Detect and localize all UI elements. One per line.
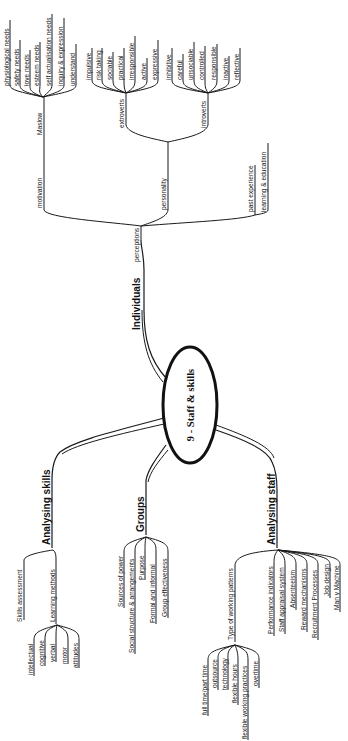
working-pattern-item: flexible hours	[231, 663, 238, 703]
extrovert-item: expressive	[151, 48, 159, 80]
maslow-item: understand	[69, 53, 76, 86]
branch-label-analysing-skills: Analysing skills	[41, 469, 52, 545]
central-topic-label: 9 - Staff & skills	[185, 369, 196, 441]
maslow-item: inquiry & expression	[57, 26, 65, 86]
working-pattern-item: flexible working practices	[241, 665, 249, 739]
working-pattern-items: full time/part time outsource technology…	[201, 645, 259, 740]
maslow-item: physiological needs	[3, 28, 11, 86]
learning-method-item: cognitive	[38, 640, 46, 666]
learning-method-item: attitudes	[72, 642, 79, 668]
analysing-staff-items: Performance indicators Staff appraisal s…	[267, 550, 340, 640]
working-pattern-item: technology	[221, 657, 229, 690]
groups-item: Formal and informal	[149, 564, 156, 623]
extroverts-items: impulsive risk taking sociable practical…	[85, 36, 159, 93]
node-maslow: Maslow	[36, 112, 43, 135]
branch-individuals: Individuals perceptions motivation perso…	[3, 14, 268, 382]
extrovert-item: risk taking	[95, 50, 103, 80]
node-working-patterns: Type of working patterns	[227, 567, 235, 640]
maslow-item: esteem needs	[33, 44, 40, 86]
analysing-staff-item: Absenteeism	[289, 569, 296, 608]
introvert-item: responsible	[210, 46, 218, 80]
node-skills-assessment: Skills assessment	[16, 569, 23, 622]
analysing-staff-item: Job design	[323, 564, 331, 596]
learning-method-items: intellectual cognitive verbal motor atti…	[27, 625, 79, 676]
introvert-item: unsociable	[187, 48, 194, 80]
branch-label-groups: Groups	[135, 496, 146, 532]
learning-method-item: verbal	[49, 644, 56, 662]
branch-label-analysing-staff: Analysing staff	[266, 473, 277, 545]
learning-method-item: motor	[61, 646, 68, 664]
groups-item: Sources of power	[117, 555, 125, 607]
groups-items: Sources of power Social structure & arra…	[117, 537, 169, 654]
analysing-staff-item: Man v Machine	[333, 565, 340, 610]
working-pattern-item: overtime	[252, 660, 259, 686]
node-personality: personality	[160, 177, 168, 210]
maslow-item: safety needs	[13, 48, 21, 86]
extrovert-item: active	[140, 62, 147, 80]
node-introverts: introverts	[200, 100, 207, 128]
introvert-item: controlled	[198, 51, 205, 80]
introverts-items: inhibitive careful unsociable controlled…	[165, 42, 240, 93]
introvert-item: inhibitive	[165, 54, 172, 80]
branch-groups: Groups Sources of power Social structure…	[117, 445, 169, 654]
node-motivation: motivation	[36, 178, 43, 208]
analysing-staff-item: Staff appraisal system	[278, 567, 286, 632]
central-topic: 9 - Staff & skills	[163, 347, 217, 463]
analysing-staff-item: Performance indicators	[267, 565, 274, 634]
groups-item: Group effectiveness	[161, 558, 169, 617]
extrovert-item: sociable	[106, 55, 113, 80]
branch-analysing-skills: Analysing skills Skills assessment Learn…	[16, 418, 164, 676]
node-learning-education: learning & education	[260, 152, 268, 212]
node-perceptions: perceptions	[133, 227, 141, 262]
analysing-staff-item: Reward mechanisms	[300, 568, 307, 630]
node-extroverts: extroverts	[118, 98, 125, 128]
introvert-item: reflective	[233, 53, 240, 80]
working-pattern-item: full time/part time	[201, 664, 209, 715]
maslow-items: physiological needs safety needs love ne…	[3, 14, 76, 97]
node-past-experience: past experience	[247, 165, 255, 212]
maslow-item: love needs	[23, 53, 30, 86]
extrovert-item: practical	[117, 55, 125, 80]
extrovert-item: impulsive	[85, 52, 93, 80]
groups-item: Social structure & arrangements	[128, 558, 136, 653]
introvert-item: inactive	[222, 57, 229, 80]
extrovert-item: irresponsible	[128, 42, 136, 80]
introvert-item: careful	[176, 60, 183, 80]
groups-item: Purpose	[138, 555, 146, 580]
mind-map: 9 - Staff & skills Individuals perceptio…	[0, 0, 348, 741]
analysing-staff-item: Recruitment Processes	[311, 569, 318, 638]
node-learning-methods: Learning methods	[49, 569, 57, 622]
working-pattern-item: outsource	[211, 659, 218, 688]
learning-method-item: intellectual	[27, 643, 34, 675]
branch-analysing-staff: Analysing staff Type of working patterns…	[201, 425, 340, 740]
maslow-item: self actualisation needs	[45, 17, 52, 86]
branch-label-individuals: Individuals	[131, 277, 142, 330]
